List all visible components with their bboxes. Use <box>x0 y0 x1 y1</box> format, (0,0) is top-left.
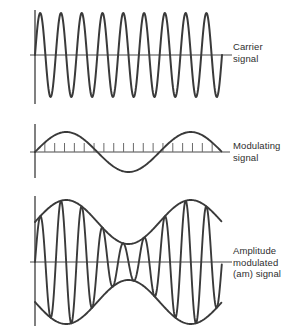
modulating-signal-label: Modulating signal <box>233 140 280 163</box>
carrier-signal-label: Carrier signal <box>233 41 263 64</box>
am-signal-label: Amplitude modulated (am) signal <box>233 245 281 280</box>
